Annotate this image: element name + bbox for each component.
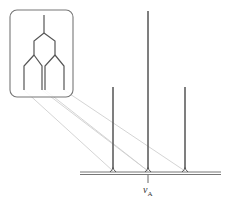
splitting-diagram (0, 0, 236, 205)
peaks (110, 11, 188, 172)
peak-right (182, 87, 188, 172)
connector-lines (24, 90, 185, 171)
center-frequency-label: νA (143, 184, 153, 198)
connector-left (24, 90, 113, 171)
peak-left (110, 87, 116, 172)
connector-center-b (45, 90, 148, 171)
connector-right (64, 90, 185, 171)
baseline (80, 172, 221, 175)
